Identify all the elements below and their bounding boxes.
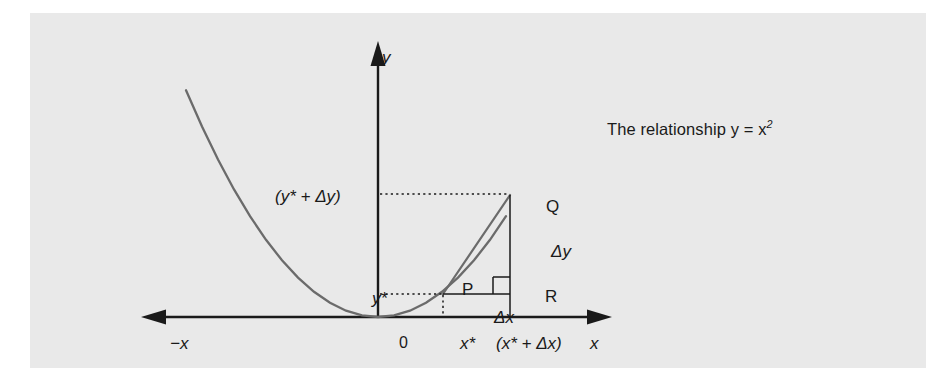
y-star-label: y* <box>372 290 387 307</box>
x-axis-left-arrowhead <box>141 310 166 325</box>
x-axis-right-arrowhead <box>587 310 612 325</box>
y-axis <box>371 41 386 317</box>
delta-x-label: Δx <box>494 309 514 326</box>
secant-chord-pq <box>443 195 510 294</box>
y-axis-label: y <box>382 49 391 66</box>
point-p-label: P <box>462 281 473 298</box>
negative-x-axis-label: −x <box>170 335 188 352</box>
x-star-label: x* <box>460 335 475 352</box>
figure-root: y x −x 0 x* (x* + Δx) y* (y* + Δy) P Q R… <box>0 0 951 389</box>
point-r-label: R <box>545 288 557 305</box>
graph-canvas <box>30 13 926 368</box>
x-star-plus-delta-x-label: (x* + Δx) <box>496 335 562 352</box>
origin-label: 0 <box>399 335 408 351</box>
figure-caption: The relationship y = x2 <box>607 118 773 139</box>
x-axis-label: x <box>590 335 599 352</box>
parabola-curve <box>186 90 506 317</box>
figure-caption-exponent: 2 <box>767 118 773 130</box>
delta-y-label: Δy <box>551 243 571 260</box>
y-star-plus-delta-y-label: (y* + Δy) <box>275 188 341 205</box>
point-q-label: Q <box>546 198 559 215</box>
figure-caption-text: The relationship y = x <box>607 120 767 138</box>
figure-panel: y x −x 0 x* (x* + Δx) y* (y* + Δy) P Q R… <box>30 13 926 368</box>
